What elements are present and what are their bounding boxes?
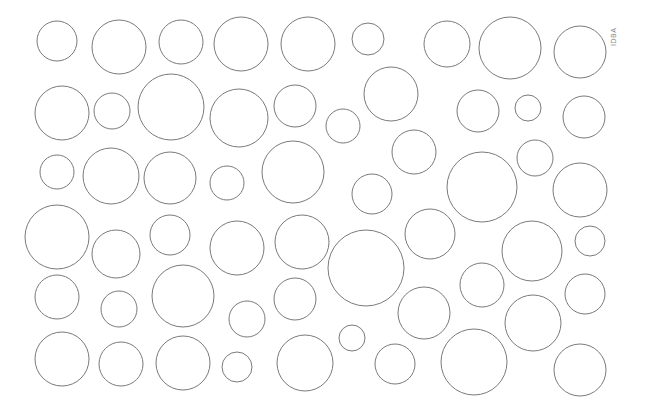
circle-outline [222,352,252,382]
circle-outline [35,332,89,386]
circle-outline [274,278,316,320]
circle-outline [441,329,507,395]
circle-outline [460,263,504,307]
circle-outline [479,17,541,79]
circle-outline [156,336,210,390]
circle-outline [150,215,190,255]
circle-outline [159,20,203,64]
circle-field [0,0,648,413]
circle-outline [229,301,265,337]
circle-outline [37,21,77,61]
circle-outline [375,344,415,384]
circle-outline [152,265,214,327]
circle-outline [364,67,418,121]
circle-outline [274,85,316,127]
circle-outline [83,148,139,204]
circle-outline [92,230,140,278]
circle-outline [328,230,404,306]
circle-outline [92,20,146,74]
circle-outline [138,74,204,140]
circle-outline [262,141,324,203]
circle-outline [40,155,74,189]
circle-outline [352,174,392,214]
circle-outline [554,26,606,78]
circle-outline [553,163,607,217]
circle-outline [210,221,264,275]
circle-outline [457,90,499,132]
watermark-label: IDBA [610,28,618,46]
circle-outline [144,152,196,204]
circle-outline [565,274,605,314]
circle-outline [277,335,333,391]
circle-outline [505,295,561,351]
circle-outline [405,209,455,259]
circle-outline [94,93,130,129]
circle-outline [554,344,606,396]
circle-outline [281,17,335,71]
circle-outline [502,221,562,281]
circle-outline [35,275,79,319]
circle-outline [515,95,541,121]
circle-outline [35,86,89,140]
circle-outline [424,21,470,67]
circle-outline [214,17,268,71]
circle-outline [326,109,360,143]
circle-outline [339,325,365,351]
circle-outline [25,205,89,269]
circle-outline [352,23,384,55]
circle-outline [210,166,244,200]
circle-outline [275,215,329,269]
circle-outline [563,96,605,138]
circle-outline [575,226,605,256]
circle-outline [447,152,517,222]
circle-outline [101,291,137,327]
circle-outline [99,342,143,386]
circle-outline [517,140,553,176]
circle-outline [398,287,450,339]
circle-outline [392,130,436,174]
circle-outline [210,89,268,147]
